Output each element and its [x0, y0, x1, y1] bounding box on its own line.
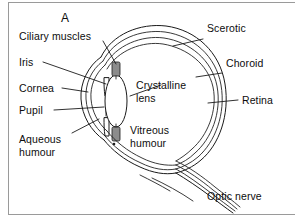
nerve-branch-upper: [152, 178, 193, 201]
label-crystalline-lens-line1: Crystalline: [136, 79, 186, 92]
label-crystalline-lens-line2: lens: [136, 92, 156, 105]
leader-iris: [43, 62, 106, 84]
label-cornea: Cornea: [19, 82, 54, 95]
leader-cornea: [62, 88, 88, 92]
label-optic-nerve: Optic nerve: [207, 190, 262, 203]
cornea-group: [81, 57, 107, 140]
label-ciliary-muscles: Ciliary muscles: [19, 30, 91, 43]
label-aqueous-humour-line1: Aqueous: [19, 133, 61, 146]
panel-letter: A: [61, 11, 69, 25]
nerve-branch-lower: [140, 175, 170, 191]
ciliary-muscle-lower: [112, 127, 120, 141]
leader-pupil: [54, 107, 104, 110]
eye-anatomy-figure: A Ciliary muscles Iris Cornea Pupil Aque…: [0, 0, 297, 217]
label-choroid: Choroid: [226, 57, 263, 70]
crystalline-lens-group: [105, 75, 127, 127]
leader-retina: [208, 100, 238, 103]
label-vitreous-humour-line2: humour: [130, 137, 166, 150]
label-scerotic: Scerotic: [207, 22, 246, 35]
crystalline-lens: [105, 75, 127, 127]
label-pupil: Pupil: [19, 104, 43, 117]
label-vitreous-humour-line1: Vitreous: [130, 124, 169, 137]
leader-scerotic: [173, 39, 203, 46]
label-iris: Iris: [19, 56, 33, 69]
iris-lower-leaf: [104, 118, 109, 136]
label-aqueous-humour-line2: humour: [19, 146, 55, 159]
label-retina: Retina: [242, 94, 273, 107]
